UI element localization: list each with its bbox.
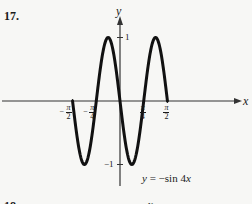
- x-axis-label: x: [243, 94, 248, 109]
- x-axis-arrow: [234, 98, 242, 104]
- x-tick-denominator: 2: [163, 113, 169, 121]
- x-tick-sign: −: [60, 108, 65, 116]
- function-label: y = −sin 4x: [142, 172, 191, 184]
- y-axis-label: y: [116, 4, 121, 19]
- x-tick-denominator: 2: [66, 113, 72, 121]
- function-var: x: [186, 172, 191, 184]
- problem-number: 17.: [4, 9, 19, 24]
- x-tick-sign: −: [83, 108, 88, 116]
- x-tick-label: π4: [140, 104, 146, 121]
- x-tick-denominator: 4: [140, 113, 146, 121]
- x-tick-denominator: 4: [89, 113, 95, 121]
- y-tick-label-neg1: −1: [104, 159, 114, 169]
- next-problem-number: 18.: [4, 199, 19, 204]
- x-tick-label: π2: [163, 104, 169, 121]
- next-problem-fragment: y: [148, 199, 153, 204]
- y-tick-label-1: 1: [125, 32, 130, 42]
- x-tick-label: −π4: [89, 104, 95, 121]
- function-rhs: = −sin 4: [147, 172, 186, 184]
- x-tick-label: −π2: [66, 104, 72, 121]
